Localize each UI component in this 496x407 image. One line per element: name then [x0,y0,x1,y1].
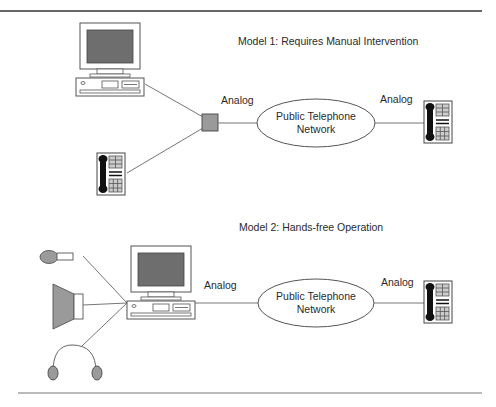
remote-telephone-icon [424,281,452,323]
network-label-line1: Public Telephone [258,110,374,123]
network-label-line2: Network [258,123,374,136]
computer-icon [127,246,195,319]
speaker-icon [53,284,83,329]
model1-title: Model 1: Requires Manual Intervention [238,35,418,47]
modem-box-icon [202,114,218,131]
model1-analog-left-label: Analog [221,94,254,106]
model1-diagram [76,23,452,195]
model2-analog-right-label: Analog [381,276,414,288]
headset-icon [48,345,102,380]
computer-icon [76,23,144,96]
model1-network-label: Public Telephone Network [258,110,374,136]
telephone-icon [97,153,125,195]
microphone-icon [40,251,73,264]
network-label-line1: Public Telephone [258,290,374,303]
model2-analog-left-label: Analog [204,279,237,291]
model1-analog-right-label: Analog [380,93,413,105]
remote-telephone-icon [424,101,452,143]
model2-title: Model 2: Hands-free Operation [239,221,383,233]
network-label-line2: Network [258,303,374,316]
model2-diagram [40,246,452,380]
diagram-canvas [0,0,496,407]
model2-network-label: Public Telephone Network [258,290,374,316]
